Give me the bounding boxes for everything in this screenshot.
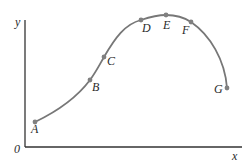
point-e-dot xyxy=(164,13,169,18)
point-e-label: E xyxy=(162,18,171,32)
position-curve-diagram: y x 0 A B C D E F G xyxy=(0,0,252,163)
point-c: C xyxy=(102,54,116,68)
point-g-dot xyxy=(225,86,230,91)
point-g-label: G xyxy=(214,82,223,96)
point-c-label: C xyxy=(107,54,116,68)
origin-label: 0 xyxy=(14,142,20,156)
point-f-label: F xyxy=(181,23,190,37)
point-b-label: B xyxy=(92,80,100,94)
y-axis-label: y xyxy=(14,15,21,29)
point-d-label: D xyxy=(141,21,151,35)
point-a-label: A xyxy=(30,122,39,136)
point-b: B xyxy=(88,78,100,94)
point-c-dot xyxy=(102,55,107,60)
point-a: A xyxy=(30,120,39,136)
x-axis-label: x xyxy=(231,149,238,163)
point-f: F xyxy=(181,20,193,37)
point-d: D xyxy=(139,18,151,35)
trajectory-curve xyxy=(35,15,227,122)
